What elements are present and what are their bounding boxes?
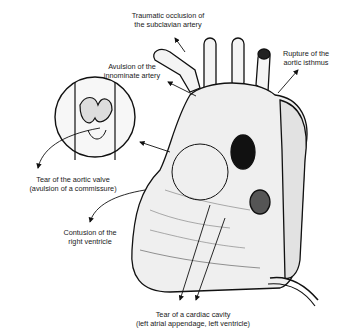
label-cardiac-cavity-tear: Tear of a cardiac cavity (left atrial ap… <box>118 311 268 328</box>
aortic-valve-inset <box>55 77 135 160</box>
label-aortic-isthmus-rupture: Rupture of the aortic isthmus <box>273 50 339 67</box>
label-aortic-valve-tear: Tear of the aortic valve (avulsion of a … <box>14 176 132 193</box>
label-subclavian-occlusion: Traumatic occlusion of the subclavian ar… <box>105 12 231 29</box>
heart-body <box>132 83 318 306</box>
label-innominate-avulsion: Avulsion of the innominate artery <box>97 63 167 80</box>
label-right-ventricle-contusion: Contusion of the right ventricle <box>56 229 124 246</box>
